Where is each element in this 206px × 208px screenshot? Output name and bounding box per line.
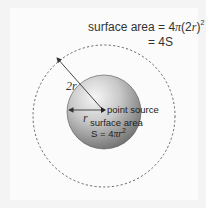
- outer-area-prefix: surface area = 4: [88, 20, 175, 34]
- point-source-label: point source: [107, 105, 159, 115]
- inner-radius-label: r: [83, 112, 88, 124]
- inner-formula-prefix: S = 4: [91, 128, 113, 139]
- outer-area-equals: = 4S: [148, 36, 173, 48]
- outer-area-value: = 4S: [148, 35, 173, 49]
- inner-area-label: surface area: [90, 118, 143, 128]
- inner-exponent: 2: [122, 127, 126, 134]
- inner-area-formula: S = 4πr2: [91, 129, 126, 140]
- paren-open: (2: [181, 20, 192, 34]
- outer-area-label: surface area = 4π(2r)2: [88, 21, 204, 33]
- exponent: 2: [200, 19, 204, 26]
- outer-radius-label: 2r: [66, 80, 77, 92]
